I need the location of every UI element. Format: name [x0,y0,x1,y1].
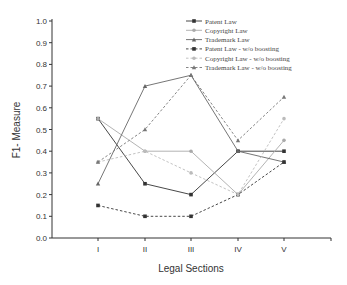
x-tick-label: III [188,245,195,254]
axes: 0.00.10.20.30.40.50.60.70.80.91.0IIIIIII… [36,17,331,254]
legend: Patent LawCopyright LawTrademark LawPate… [186,18,292,73]
legend-label: Copyright Law - w/o boosting [205,55,290,63]
legend-item: Patent Law [186,18,238,26]
y-axis-title: F1- Measure [11,101,22,158]
y-tick-label: 0.4 [36,147,48,156]
y-tick-label: 0.0 [36,234,48,243]
legend-item: Copyright Law [186,27,249,35]
y-tick-label: 0.6 [36,104,48,113]
x-tick-label: V [281,245,287,254]
x-tick-label: I [97,245,99,254]
x-tick-label: IV [234,245,242,254]
y-tick-label: 0.8 [36,60,48,69]
legend-label: Patent Law [205,18,238,26]
series-trademark-law [96,73,286,186]
y-tick-label: 0.5 [36,126,48,135]
y-tick-label: 0.1 [36,212,48,221]
y-tick-label: 1.0 [36,17,48,26]
legend-label: Patent Law - w/o boosting [205,45,279,53]
legend-item: Copyright Law - w/o boosting [186,55,290,63]
legend-label: Trademark Law - w/o boosting [205,64,292,72]
series-layer [96,73,286,218]
legend-label: Copyright Law [205,27,249,35]
series-patent-law-w-o-boosting [96,160,286,218]
legend-item: Trademark Law - w/o boosting [186,64,292,72]
y-tick-label: 0.9 [36,39,48,48]
y-tick-label: 0.7 [36,82,48,91]
y-tick-label: 0.3 [36,169,48,178]
y-tick-label: 0.2 [36,191,48,200]
line-chart: 0.00.10.20.30.40.50.60.70.80.91.0IIIIIII… [0,0,347,285]
legend-item: Patent Law - w/o boosting [186,45,279,53]
x-axis-title: Legal Sections [158,263,224,274]
x-tick-label: II [143,245,147,254]
legend-label: Trademark Law [205,36,251,44]
legend-item: Trademark Law [186,36,251,44]
